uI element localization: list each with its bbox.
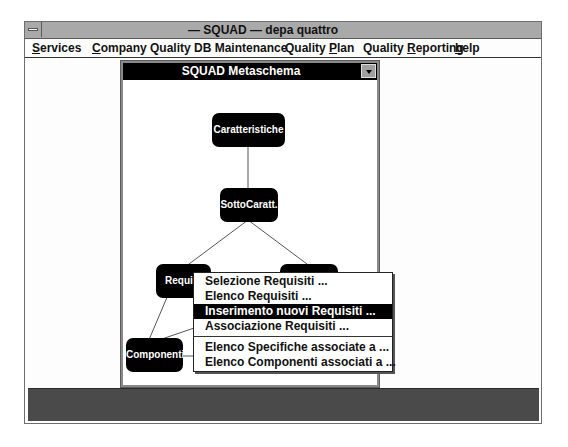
- menu-item-elenco-componenti-associati[interactable]: Elenco Componenti associati a ...: [194, 355, 392, 370]
- menubar: Services Company Quality DB Maintenance …: [25, 39, 541, 58]
- menu-label: elp: [462, 41, 479, 55]
- menu-item-elenco-requisiti[interactable]: Elenco Requisiti ...: [194, 289, 392, 304]
- node-caratteristiche[interactable]: Caratteristiche: [212, 113, 285, 147]
- node-componenti[interactable]: Componenti: [126, 338, 183, 372]
- menu-mnemonic: C: [92, 41, 101, 55]
- app-titlebar[interactable]: — SQUAD — depa quattro: [25, 22, 541, 39]
- menu-label: Quality: [363, 41, 407, 55]
- metaschema-title: SQUAD Metaschema: [123, 63, 359, 80]
- menu-label: Quality: [285, 41, 329, 55]
- menu-company-quality-db-maintenance[interactable]: Company Quality DB Maintenance: [92, 39, 287, 57]
- metaschema-titlebar[interactable]: SQUAD Metaschema: [123, 63, 377, 80]
- menu-quality-reporting[interactable]: Quality Reporting: [363, 39, 464, 57]
- menu-label: ompany Quality DB Maintenance: [101, 41, 288, 55]
- menu-item-associazione-requisiti[interactable]: Associazione Requisiti ...: [194, 319, 392, 334]
- menu-separator: [194, 336, 392, 337]
- menu-item-elenco-specifiche-associate[interactable]: Elenco Specifiche associate a ...: [194, 340, 392, 355]
- menu-quality-plan[interactable]: Quality Plan: [285, 39, 354, 57]
- status-bar: [28, 388, 539, 421]
- menu-help[interactable]: help: [455, 39, 480, 57]
- menu-services[interactable]: Services: [32, 39, 81, 57]
- app-title: — SQUAD — depa quattro: [25, 22, 541, 38]
- chevron-down-icon[interactable]: [361, 64, 376, 78]
- menu-label: ervices: [40, 41, 81, 55]
- menu-mnemonic: S: [32, 41, 40, 55]
- menu-item-inserimento-nuovi-requisiti[interactable]: Inserimento nuovi Requisiti ...: [194, 304, 392, 319]
- menu-label: lan: [337, 41, 354, 55]
- menu-mnemonic: R: [407, 41, 416, 55]
- menu-mnemonic: P: [329, 41, 337, 55]
- requisiti-context-menu: Selezione Requisiti ... Elenco Requisiti…: [193, 272, 393, 372]
- menu-item-selezione-requisiti[interactable]: Selezione Requisiti ...: [194, 274, 392, 289]
- node-sottocaratt[interactable]: SottoCaratt.: [220, 188, 278, 222]
